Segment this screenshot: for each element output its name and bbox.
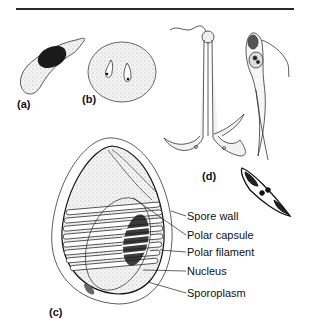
callout-sporoplasm: Sporoplasm [187, 287, 246, 299]
callout-polar-filament: Polar filament [187, 246, 254, 258]
panel-c-spore [52, 138, 172, 304]
panel-b-cyst [88, 42, 156, 102]
panel-label-c: (c) [49, 306, 62, 318]
callout-nucleus: Nucleus [187, 265, 227, 277]
panel-label-a: (a) [17, 98, 30, 110]
callout-polar-capsule: Polar capsule [187, 229, 254, 241]
panel-a-cell [20, 38, 84, 94]
panel-label-b: (b) [82, 93, 96, 105]
figure-drawing [0, 0, 310, 329]
panel-d-anchor-spore [164, 26, 245, 156]
panel-d-tailed-spore [246, 33, 289, 160]
panel-d-fusiform-spore [241, 168, 290, 216]
callout-spore-wall: Spore wall [187, 210, 238, 222]
panel-label-d: (d) [202, 170, 216, 182]
